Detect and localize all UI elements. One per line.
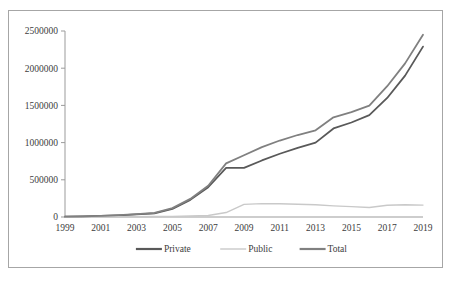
series-line-total xyxy=(65,35,423,217)
x-tick-label: 2009 xyxy=(235,223,254,233)
y-axis: 05000001000000150000020000002500000 xyxy=(25,26,65,222)
y-tick-label: 2000000 xyxy=(25,64,59,74)
y-tick-label: 1500000 xyxy=(25,101,59,111)
legend-item-private[interactable]: Private xyxy=(136,244,191,254)
x-tick-label: 2003 xyxy=(127,223,146,233)
chart-figure: 0500000100000015000002000000250000019992… xyxy=(8,10,443,268)
x-tick-label: 2007 xyxy=(199,223,218,233)
legend-label-public: Public xyxy=(248,244,272,254)
x-axis: 1999200120032005200720092011201320152017… xyxy=(56,217,433,233)
x-tick-label: 1999 xyxy=(56,223,75,233)
y-tick-label: 500000 xyxy=(30,175,59,185)
x-tick-label: 2005 xyxy=(163,223,182,233)
x-tick-label: 2019 xyxy=(414,223,433,233)
legend-item-total[interactable]: Total xyxy=(300,244,348,254)
series-group xyxy=(65,35,423,217)
y-tick-label: 1000000 xyxy=(25,138,59,148)
x-tick-label: 2017 xyxy=(378,223,397,233)
legend: PrivatePublicTotal xyxy=(136,244,347,254)
series-line-private xyxy=(65,47,423,217)
y-tick-label: 2500000 xyxy=(25,26,59,36)
legend-label-private: Private xyxy=(164,244,191,254)
x-tick-label: 2013 xyxy=(306,223,325,233)
x-tick-label: 2011 xyxy=(270,223,289,233)
line-chart: 0500000100000015000002000000250000019992… xyxy=(9,11,442,267)
x-tick-label: 2001 xyxy=(91,223,110,233)
legend-label-total: Total xyxy=(328,244,348,254)
legend-item-public[interactable]: Public xyxy=(220,244,272,254)
x-tick-label: 2015 xyxy=(342,223,361,233)
y-tick-label: 0 xyxy=(53,212,58,222)
